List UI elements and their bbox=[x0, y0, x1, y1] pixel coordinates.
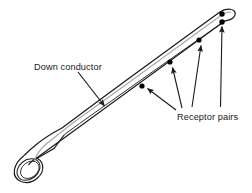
down-conductor-label: Down conductor bbox=[34, 62, 102, 72]
receptor-dot-2 bbox=[167, 59, 172, 64]
receptor-dot-1 bbox=[139, 83, 144, 88]
diagram-canvas: Down conductor Receptor pairs bbox=[0, 0, 252, 193]
receptor-dot-4 bbox=[219, 11, 224, 16]
receptor-dot-5 bbox=[219, 19, 224, 24]
turbine-blade-diagram: Down conductor Receptor pairs bbox=[0, 0, 252, 193]
receptor-pairs-label: Receptor pairs bbox=[177, 112, 238, 122]
receptor-dot-3 bbox=[196, 37, 201, 42]
